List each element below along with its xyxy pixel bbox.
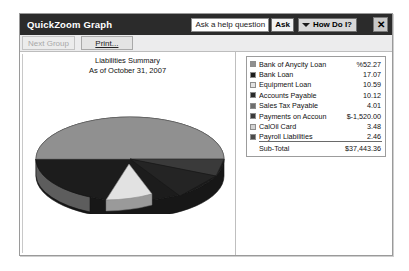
legend-value: 3.48 [367, 122, 382, 131]
legend-label: Equipment Loan [259, 80, 363, 89]
legend-swatch-icon [250, 92, 256, 98]
help-search-input[interactable]: Ask a help question [191, 18, 269, 32]
pie-chart-svg [30, 104, 230, 214]
legend-label: Accounts Payable [259, 91, 363, 100]
ask-button[interactable]: Ask [271, 18, 294, 32]
legend-subtotal-row: Sub-Total $37,443.36 [250, 143, 382, 153]
legend-value: 10.12 [363, 91, 382, 100]
legend-value: 2.46 [367, 132, 382, 142]
close-icon[interactable]: ✕ [373, 17, 388, 32]
legend-row[interactable]: Payments on Accoun $-1,520.00 [250, 111, 382, 121]
legend-value: $-1,520.00 [347, 112, 382, 121]
legend-row[interactable]: Bank Loan 17.07 [250, 69, 382, 79]
window-titlebar: QuickZoom Graph Ask a help question Ask … [20, 14, 392, 35]
legend-swatch-icon [250, 61, 256, 67]
quickzoom-graph-window: QuickZoom Graph Ask a help question Ask … [19, 13, 393, 256]
legend-row[interactable]: Sales Tax Payable 4.01 [250, 101, 382, 111]
chart-subtitle: As of October 31, 2007 [20, 66, 235, 76]
legend-box: Bank of Anycity Loan %52.27 Bank Loan 17… [246, 56, 386, 157]
legend-value: 10.59 [363, 80, 382, 89]
legend-row[interactable]: Accounts Payable 10.12 [250, 90, 382, 100]
legend-swatch-icon [250, 113, 256, 119]
legend-subtotal-value: $37,443.36 [345, 144, 382, 153]
legend-subtotal-label: Sub-Total [250, 144, 345, 153]
how-do-i-label: How Do I? [313, 20, 352, 29]
legend-label: Bank Loan [259, 70, 363, 79]
window-title: QuickZoom Graph [27, 19, 112, 30]
print-button[interactable]: Print... [81, 36, 133, 50]
pie-chart[interactable] [30, 104, 230, 214]
legend-row[interactable]: Equipment Loan 10.59 [250, 80, 382, 90]
chart-header: Liabilities Summary As of October 31, 20… [20, 56, 235, 76]
legend-pane: Bank of Anycity Loan %52.27 Bank Loan 17… [236, 52, 392, 255]
legend-label: CalOil Card [259, 122, 367, 131]
next-group-button[interactable]: Next Group [22, 36, 75, 50]
legend-row[interactable]: CalOil Card 3.48 [250, 121, 382, 131]
legend-swatch-icon [250, 124, 256, 130]
chevron-down-icon [302, 23, 310, 27]
legend-swatch-icon [250, 72, 256, 78]
legend-label: Payroll Liabilities [259, 132, 367, 142]
legend-label: Sales Tax Payable [259, 101, 367, 110]
legend-label: Bank of Anycity Loan [259, 60, 357, 69]
window-content: Liabilities Summary As of October 31, 20… [20, 52, 392, 255]
print-button-label: Print... [95, 39, 118, 48]
legend-swatch-icon [250, 134, 256, 140]
legend-value: 4.01 [367, 101, 382, 110]
how-do-i-button[interactable]: How Do I? [298, 18, 357, 32]
legend-swatch-icon [250, 103, 256, 109]
legend-value: 17.07 [363, 70, 382, 79]
legend-row[interactable]: Payroll Liabilities 2.46 [250, 132, 382, 142]
window-toolbar: Next Group Print... [20, 35, 392, 52]
legend-swatch-icon [250, 82, 256, 88]
legend-label: Payments on Accoun [259, 112, 347, 121]
chart-pane: Liabilities Summary As of October 31, 20… [20, 52, 236, 255]
legend-row[interactable]: Bank of Anycity Loan %52.27 [250, 59, 382, 69]
legend-value: %52.27 [357, 60, 382, 69]
chart-title: Liabilities Summary [20, 56, 235, 66]
